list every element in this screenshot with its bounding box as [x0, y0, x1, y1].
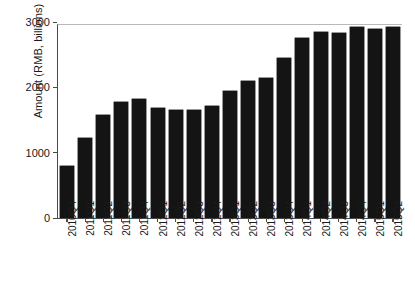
x-axis-label-slot: 2014Q1: [293, 224, 311, 280]
bar: [368, 29, 382, 218]
bar-slot: [275, 22, 293, 218]
y-axis-tick-mark: [53, 87, 57, 88]
x-axis-label-slot: 2010Q4: [58, 224, 76, 280]
bar-slot: [94, 22, 112, 218]
bar-slot: [58, 22, 76, 218]
bar-slot: [76, 22, 94, 218]
x-axis-label-slot: 2013Q3: [257, 224, 275, 280]
bar: [277, 58, 291, 218]
bar-series: [58, 22, 402, 218]
x-axis-label-slot: 2014Q2: [312, 224, 330, 280]
bar-slot: [384, 22, 402, 218]
bar-slot: [348, 22, 366, 218]
bar-slot: [366, 22, 384, 218]
bar: [314, 32, 328, 218]
y-axis-tick-label: 3000: [0, 16, 57, 28]
bar-slot: [130, 22, 148, 218]
bar-slot: [149, 22, 167, 218]
x-axis-label-slot: 2014Q4: [348, 224, 366, 280]
bar-slot: [221, 22, 239, 218]
bar-slot: [257, 22, 275, 218]
y-axis-tick-mark: [53, 152, 57, 153]
bar-slot: [239, 22, 257, 218]
bar-slot: [312, 22, 330, 218]
y-axis-tick-label: 2000: [0, 81, 57, 93]
x-axis-label-slot: 2015Q2: [384, 224, 402, 280]
x-axis-label-slot: 2012Q3: [185, 224, 203, 280]
bar-slot: [293, 22, 311, 218]
x-axis-label-slot: 2011Q3: [112, 224, 130, 280]
bar: [350, 27, 364, 218]
y-axis-tick-label: 0: [0, 212, 57, 224]
bar: [332, 33, 346, 218]
bar-slot: [167, 22, 185, 218]
x-axis-label-slot: 2011Q1: [76, 224, 94, 280]
x-axis-label-slot: 2011Q2: [94, 224, 112, 280]
x-axis-label-slot: 2014Q3: [330, 224, 348, 280]
bar-slot: [203, 22, 221, 218]
bar: [295, 38, 309, 218]
x-axis-label-slot: 2012Q2: [167, 224, 185, 280]
x-axis-label-slot: 2012Q1: [149, 224, 167, 280]
bar-chart: Amount (RMB, billions) 0100020003000 201…: [0, 0, 415, 282]
x-axis-label-slot: 2011Q4: [130, 224, 148, 280]
y-axis-tick-label: 1000: [0, 147, 57, 159]
bar-slot: [112, 22, 130, 218]
bar: [386, 27, 400, 218]
bar-slot: [330, 22, 348, 218]
x-axis-label-slot: 2013Q4: [275, 224, 293, 280]
x-axis-label-slot: 2013Q2: [239, 224, 257, 280]
x-axis-labels: 2010Q42011Q12011Q22011Q32011Q42012Q12012…: [58, 224, 402, 280]
x-axis-label-slot: 2015Q1: [366, 224, 384, 280]
x-axis-label-slot: 2013Q1: [221, 224, 239, 280]
bar-slot: [185, 22, 203, 218]
y-axis-tick-mark: [53, 22, 57, 23]
x-axis-label-slot: 2012Q4: [203, 224, 221, 280]
x-axis-tick-label: 2015Q2: [393, 198, 404, 250]
